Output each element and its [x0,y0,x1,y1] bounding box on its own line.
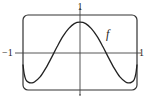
y-tick-label-top: 1 [78,1,83,12]
x-tick-label-right: 1 [139,47,144,58]
function-label: f [106,27,111,41]
function-graph: 1 −1 1 f [0,0,145,97]
x-tick-label-left: −1 [2,47,13,58]
